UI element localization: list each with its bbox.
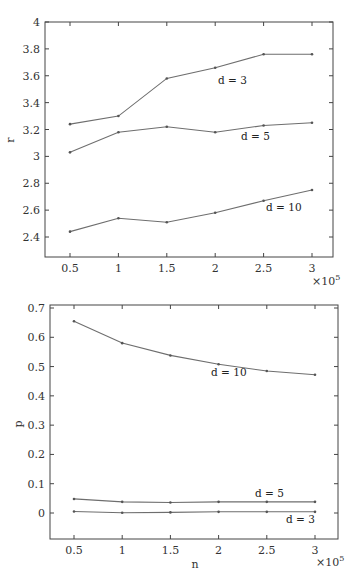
bottom-label-d5: d = 5 (255, 487, 284, 499)
bottom-label-d10: d = 10 (211, 366, 247, 378)
bottom-y-tick-label: 0.3 (28, 419, 46, 432)
top-x-tick-label: 3 (309, 262, 316, 275)
bottom-y-tick-label: 0 (38, 507, 45, 520)
top-y-tick-label: 2.4 (23, 231, 41, 244)
top-chart-frame (45, 22, 333, 257)
bottom-y-tick-label: 0.6 (28, 331, 46, 344)
top-data-point (69, 151, 72, 154)
bottom-y-tick-label: 0.2 (28, 448, 46, 461)
top-x-tick-label: 1 (115, 262, 122, 275)
bottom-x-ticks: 0.511.522.53 (65, 305, 318, 557)
top-data-point (166, 126, 169, 129)
top-y-tick-label: 2.8 (23, 177, 41, 190)
top-x-ticks: 0.511.522.53 (61, 22, 315, 275)
top-y-tick-label: 3.2 (23, 124, 41, 137)
top-data-point (214, 212, 217, 215)
bottom-series-line (74, 499, 315, 503)
bottom-data-point (266, 511, 269, 514)
bottom-series (73, 320, 317, 514)
bottom-x-tick-label: 1 (119, 544, 126, 557)
top-series-line (70, 123, 312, 153)
top-y-tick-label: 3.6 (23, 70, 41, 83)
top-data-point (262, 124, 265, 127)
bottom-data-point (217, 511, 220, 514)
top-data-point (166, 77, 169, 80)
bottom-y-tick-label: 0.1 (28, 478, 46, 491)
bottom-x-tick-label: 1.5 (162, 544, 180, 557)
top-y-tick-label: 2.6 (23, 204, 41, 217)
top-data-point (69, 123, 72, 126)
bottom-data-point (169, 511, 172, 514)
top-x-multiplier: ×105 (312, 273, 340, 288)
bottom-data-point (266, 501, 269, 504)
top-x-tick-label: 0.5 (61, 262, 79, 275)
top-data-point (117, 131, 120, 134)
top-data-point (311, 53, 314, 56)
top-data-point (262, 199, 265, 202)
bottom-chart: 0.511.522.53 00.10.20.30.40.50.60.7 p n … (12, 302, 344, 571)
bottom-data-point (169, 354, 172, 357)
bottom-x-axis-label: n (191, 558, 198, 571)
top-y-tick-label: 3.4 (23, 97, 41, 110)
bottom-x-multiplier: ×105 (316, 554, 344, 569)
top-x-tick-label: 2.5 (255, 262, 273, 275)
bottom-series-line (74, 512, 315, 513)
top-y-axis-label: r (4, 137, 17, 143)
top-data-point (117, 217, 120, 220)
bottom-data-point (314, 501, 317, 504)
bottom-y-ticks: 00.10.20.30.40.50.60.7 (28, 302, 339, 520)
bottom-data-point (121, 501, 124, 504)
top-data-point (117, 115, 120, 118)
bottom-y-tick-label: 0.4 (28, 390, 46, 403)
top-y-tick-label: 4 (33, 16, 40, 29)
top-data-point (69, 230, 72, 233)
top-label-d3: d = 3 (218, 74, 247, 86)
bottom-data-point (169, 501, 172, 504)
top-data-point (262, 53, 265, 56)
top-data-point (311, 189, 314, 192)
top-data-point (166, 221, 169, 224)
bottom-data-point (121, 511, 124, 514)
top-data-point (214, 66, 217, 69)
top-y-tick-label: 3.8 (23, 43, 41, 56)
bottom-x-tick-label: 2.5 (258, 544, 276, 557)
bottom-y-tick-label: 0.5 (28, 361, 46, 374)
top-label-d10: d = 10 (266, 201, 302, 213)
top-x-tick-label: 1.5 (158, 262, 176, 275)
bottom-data-point (314, 373, 317, 376)
bottom-data-point (217, 501, 220, 504)
bottom-x-tick-label: 2 (215, 544, 222, 557)
top-data-point (311, 121, 314, 124)
bottom-series-line (74, 321, 315, 375)
bottom-y-tick-label: 0.7 (28, 302, 46, 315)
top-x-tick-label: 2 (212, 262, 219, 275)
bottom-label-d3: d = 3 (286, 513, 315, 525)
top-y-tick-label: 3 (33, 150, 40, 163)
bottom-chart-frame (50, 305, 338, 539)
bottom-data-point (121, 342, 124, 345)
top-series-line (70, 54, 312, 124)
top-label-d5: d = 5 (241, 130, 270, 142)
bottom-x-tick-label: 0.5 (65, 544, 83, 557)
figure: 0.511.522.53 2.42.62.833.23.43.63.84 r d… (0, 0, 356, 586)
bottom-data-point (266, 370, 269, 373)
top-data-point (214, 131, 217, 134)
top-chart: 0.511.522.53 2.42.62.833.23.43.63.84 r d… (4, 16, 340, 288)
bottom-data-point (73, 498, 76, 501)
bottom-data-point (73, 510, 76, 513)
bottom-data-point (73, 320, 76, 323)
bottom-y-axis-label: p (12, 420, 25, 427)
